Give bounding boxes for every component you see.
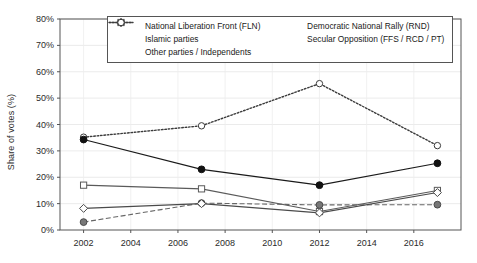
data-point-marker bbox=[118, 19, 124, 25]
legend-label: Other parties / Independents bbox=[145, 47, 251, 58]
series-line bbox=[84, 140, 438, 186]
legend-marker-icon bbox=[114, 47, 140, 58]
legend-label: Islamic parties bbox=[145, 34, 199, 45]
series-line bbox=[84, 84, 438, 146]
data-point-marker bbox=[198, 186, 204, 192]
data-point-marker bbox=[198, 123, 204, 129]
series-line bbox=[84, 193, 438, 213]
data-point-marker bbox=[316, 80, 322, 86]
legend-label: Secular Opposition (FFS / RCD / PT) bbox=[307, 34, 444, 45]
data-point-marker bbox=[434, 142, 440, 148]
data-point-marker bbox=[80, 136, 87, 143]
legend-marker-icon bbox=[114, 34, 140, 45]
data-point-marker bbox=[80, 182, 86, 188]
data-point-marker bbox=[80, 204, 88, 212]
data-point-marker bbox=[80, 219, 87, 226]
legend-item-rnd[interactable]: Democratic National Rally (RND) bbox=[276, 21, 446, 32]
legend-label: National Liberation Front (FLN) bbox=[145, 21, 260, 32]
data-point-marker bbox=[316, 202, 323, 209]
data-point-marker bbox=[434, 160, 441, 167]
data-point-marker bbox=[434, 201, 441, 208]
data-point-marker bbox=[198, 166, 205, 173]
legend-item-other-parties[interactable]: Other parties / Independents bbox=[114, 47, 262, 58]
legend-marker-icon bbox=[276, 34, 302, 45]
chart-container: Share of votes (%) 0%10%20%30%40%50%60%7… bbox=[0, 0, 477, 263]
legend-label: Democratic National Rally (RND) bbox=[307, 21, 429, 32]
legend-item-islamic-parties[interactable]: Islamic parties bbox=[114, 34, 262, 45]
legend-item-secular-opposition[interactable]: Secular Opposition (FFS / RCD / PT) bbox=[276, 34, 446, 45]
chart-legend: National Liberation Front (FLN)Democrati… bbox=[107, 16, 453, 63]
data-point-marker bbox=[316, 182, 323, 189]
legend-item-fln[interactable]: National Liberation Front (FLN) bbox=[114, 21, 262, 32]
legend-marker-icon bbox=[276, 21, 302, 32]
series-line bbox=[84, 185, 438, 211]
